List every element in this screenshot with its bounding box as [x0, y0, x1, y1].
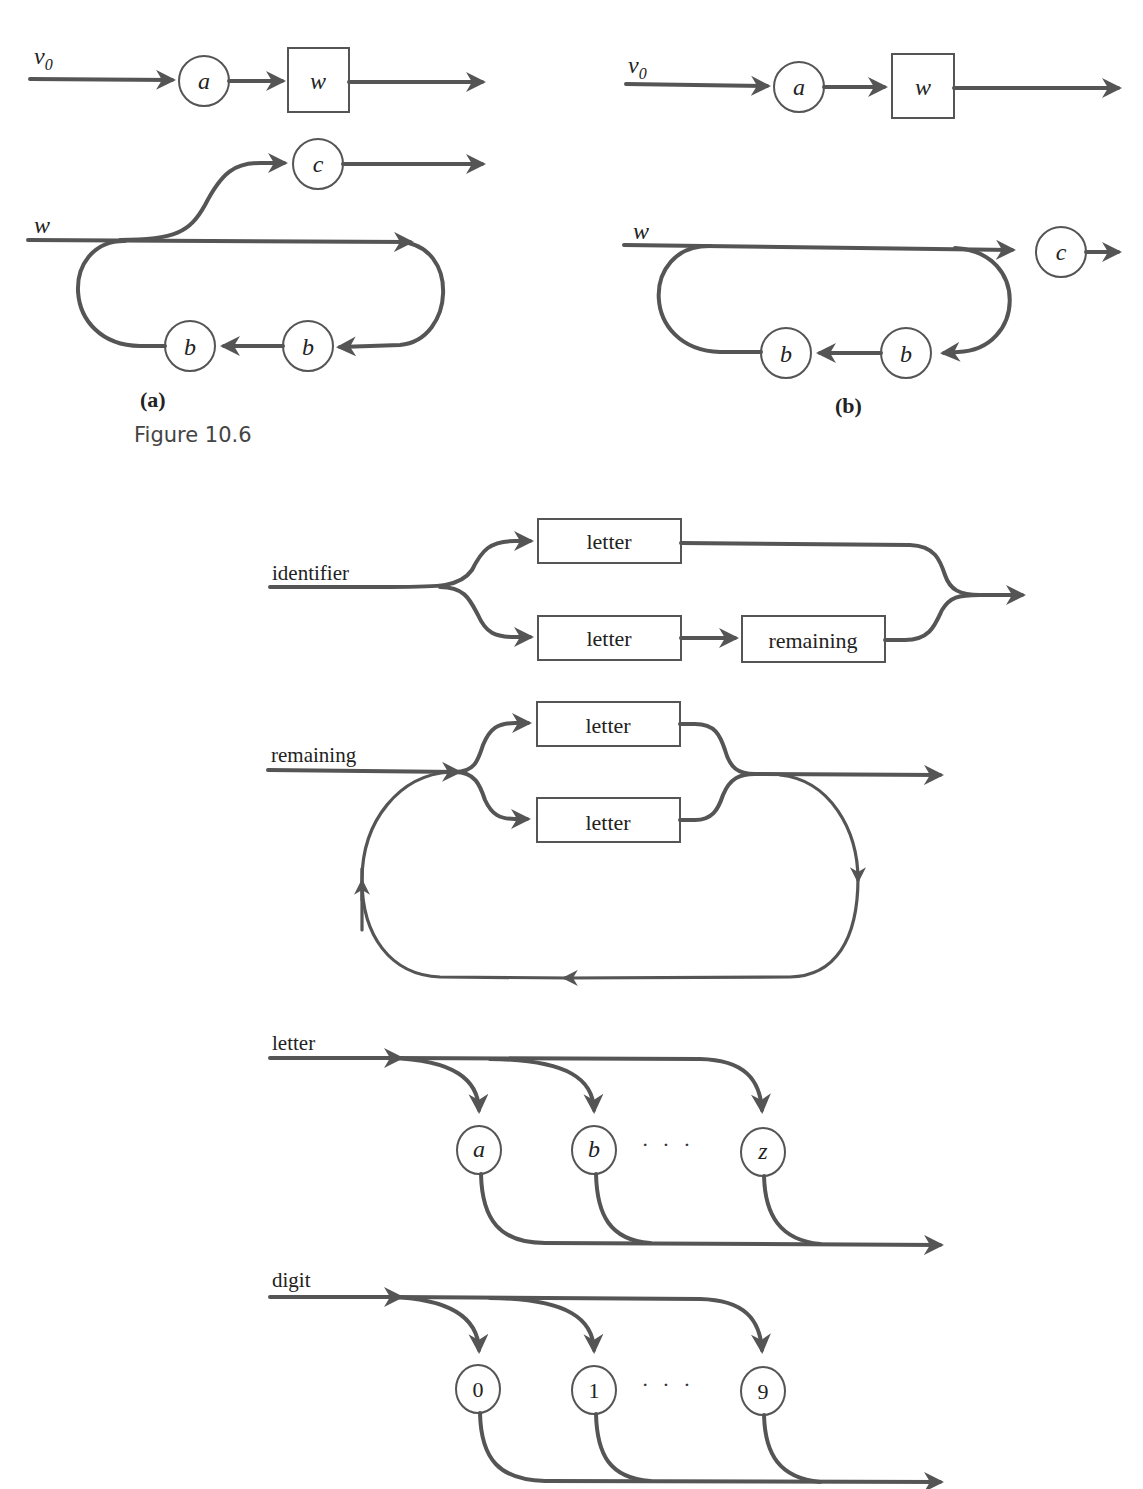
input-label-w: w [633, 218, 649, 244]
edge-upper-merge [680, 724, 755, 774]
identifier-label: identifier [272, 561, 349, 585]
ellipsis: · · · [642, 1372, 695, 1397]
node-c-label: c [1056, 239, 1067, 265]
ellipsis: · · · [642, 1132, 695, 1157]
digit-label: digit [272, 1268, 311, 1292]
node-a-label: a [793, 74, 805, 100]
syntax-letter: letter a b · · · z [270, 1031, 940, 1245]
edge-v0-to-a [626, 84, 767, 86]
edge-loop-left [659, 246, 761, 352]
box-remaining-label: remaining [768, 628, 857, 653]
diagram-canvas: v0 a w w c b b (a) v0 [0, 0, 1143, 1489]
panel-b: v0 a w w c b b (b) [624, 52, 1118, 418]
box-w-label: w [310, 68, 326, 94]
panel-a-loop: w c b b [28, 139, 482, 371]
node-9-label: 9 [758, 1379, 769, 1404]
edge-to-z [395, 1058, 762, 1110]
edge-lower-merge [680, 774, 755, 820]
node-b-left-label: b [780, 341, 792, 367]
node-a-label: a [198, 68, 210, 94]
edge-w-to-c [120, 163, 284, 240]
edge-1-exit [596, 1414, 650, 1481]
edge-loop-left [78, 241, 165, 346]
edge-to-1 [490, 1298, 594, 1350]
loop-bottom-back [565, 878, 858, 978]
edge-0-exit [480, 1413, 940, 1482]
panel-b-loop: w c b b [624, 218, 1118, 378]
edge-to-lower-letter [440, 587, 530, 637]
figure-caption: Figure 10.6 [134, 423, 252, 447]
edge-w-main [28, 240, 410, 242]
syntax-remaining: remaining letter letter [268, 702, 940, 978]
box-upper-letter-label: letter [586, 529, 632, 554]
syntax-identifier: identifier letter letter remaining [270, 519, 1022, 662]
node-b-right-label: b [900, 341, 912, 367]
box-w-label: w [915, 74, 931, 100]
loop-bottom-left [362, 869, 570, 978]
node-c-label: c [313, 151, 324, 177]
node-b-left-label: b [184, 334, 196, 360]
loop-left-up [362, 772, 450, 900]
panel-b-label: (b) [835, 393, 862, 418]
node-b-label: b [588, 1136, 600, 1162]
remaining-label: remaining [271, 743, 357, 767]
edge-9-exit [764, 1415, 820, 1482]
edge-loop-right [340, 242, 443, 347]
node-0-label: 0 [473, 1377, 484, 1402]
panel-b-top-row: v0 a w [626, 52, 1118, 118]
edge-v0-to-a [30, 79, 172, 80]
syntax-digit: digit 0 1 · · · 9 [270, 1268, 940, 1482]
edge-to-upper-letter [455, 723, 528, 772]
edge-loop-right [944, 248, 1010, 353]
remaining-entry-line [268, 770, 458, 772]
edge-to-upper-letter [390, 541, 530, 587]
box-lower-letter-label: letter [585, 810, 631, 835]
edge-to-9 [395, 1297, 762, 1350]
node-1-label: 1 [589, 1378, 600, 1403]
edge-to-lower-letter [455, 772, 527, 819]
edge-to-a [390, 1058, 479, 1110]
input-label-v0: v0 [34, 43, 53, 73]
edge-to-b [490, 1059, 594, 1110]
panel-a-top-row: v0 a w [30, 43, 482, 112]
input-label-v0: v0 [628, 52, 647, 82]
node-z-label: z [757, 1138, 768, 1164]
box-lower-letter-label: letter [586, 626, 632, 651]
edge-to-0 [390, 1297, 479, 1350]
node-a-label: a [473, 1136, 485, 1162]
edge-b-exit [596, 1174, 650, 1243]
box-upper-letter-label: letter [585, 713, 631, 738]
edge-upper-merge [681, 543, 980, 595]
input-label-w: w [34, 212, 50, 238]
edge-z-exit [764, 1176, 820, 1244]
edge-lower-merge [885, 595, 980, 640]
loop-right-down [780, 775, 858, 880]
letter-label: letter [272, 1031, 315, 1055]
node-b-right-label: b [302, 334, 314, 360]
edge-a-exit [481, 1174, 940, 1245]
panel-a-label: (a) [140, 387, 166, 412]
panel-a: v0 a w w c b b (a) [28, 43, 482, 412]
